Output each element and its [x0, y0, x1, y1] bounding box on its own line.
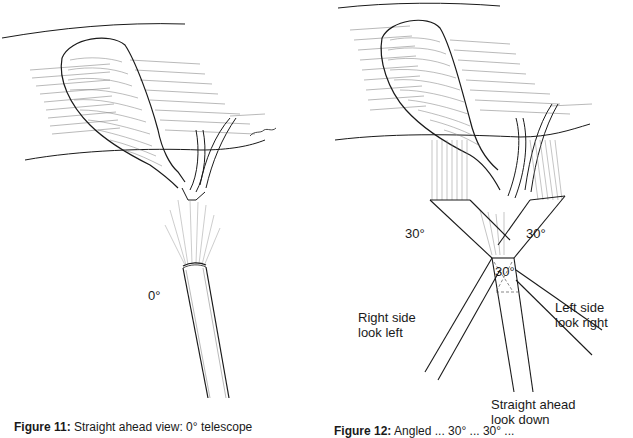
angle-label-30-left: 30°	[405, 226, 425, 241]
view-label-left-side-line2: look right	[555, 315, 608, 330]
angle-label-0-degree: 0°	[148, 288, 160, 303]
view-label-right-side-line1: Right side	[358, 310, 416, 325]
figure-caption-left: Figure 11: Straight ahead view: 0° teles…	[14, 420, 252, 434]
view-label-left-side-line1: Left side	[555, 300, 608, 315]
figure-caption-right: Figure 12: Angled ... 30° ... 30° ...	[334, 424, 514, 438]
caption-label: Figure 12:	[334, 424, 391, 438]
view-label-straight-line1: Straight ahead	[491, 397, 576, 412]
caption-text: Straight ahead view: 0° telescope	[74, 420, 252, 434]
view-label-right-side: Right side look left	[358, 310, 416, 340]
caption-text: Angled ... 30° ... 30° ...	[394, 424, 514, 438]
angle-label-30-right: 30°	[526, 226, 546, 241]
figure-30-degree-telescope: 30° 30° 30° Right side look left Left si…	[320, 0, 633, 432]
view-label-right-side-line2: look left	[358, 325, 416, 340]
figure-0-degree-telescope: 0° Figure 11: Straight ahead view: 0° te…	[0, 0, 320, 432]
angle-label-30-center: 30°	[495, 264, 515, 279]
gallbladder-illustration-right	[320, 0, 633, 432]
caption-label: Figure 11:	[14, 420, 71, 434]
view-label-straight-ahead: Straight ahead look down	[491, 397, 576, 427]
gallbladder-illustration-left	[0, 0, 320, 432]
artist-signature	[250, 128, 276, 136]
view-label-left-side: Left side look right	[555, 300, 608, 330]
